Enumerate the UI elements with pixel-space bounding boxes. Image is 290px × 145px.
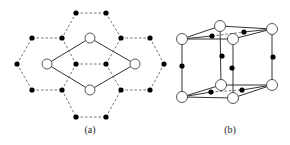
filled-atom	[179, 63, 184, 68]
dashed-bond	[62, 90, 76, 117]
dashed-bond	[62, 13, 76, 38]
solid-bond	[233, 85, 272, 98]
filled-atom	[241, 29, 246, 34]
panel-b-prism-cell	[177, 21, 278, 104]
panel-a-hex-lattice	[14, 10, 166, 119]
filled-atom	[29, 35, 34, 40]
solid-bond	[47, 64, 90, 90]
dashed-bond	[106, 38, 121, 64]
panel-a-label: (a)	[84, 124, 95, 135]
filled-atom	[118, 35, 123, 40]
open-atom	[215, 21, 226, 32]
filled-atom	[118, 87, 123, 92]
dashed-bond	[106, 13, 121, 38]
panel-b-label: (b)	[224, 124, 236, 135]
filled-atom	[103, 114, 108, 119]
filled-atom	[209, 33, 214, 38]
filled-atom	[73, 61, 78, 66]
open-atom	[130, 59, 140, 69]
open-atom	[85, 33, 95, 43]
filled-atom	[229, 65, 234, 70]
dashed-bond	[150, 64, 164, 90]
filled-atom	[14, 61, 19, 66]
filled-atom	[239, 87, 244, 92]
filled-atom	[103, 10, 108, 15]
open-atom	[42, 59, 52, 69]
filled-atom	[59, 35, 64, 40]
solid-bond	[47, 38, 90, 64]
filled-atom	[29, 87, 34, 92]
filled-atom	[161, 61, 166, 66]
solid-bond	[90, 38, 135, 64]
dashed-bond	[17, 38, 32, 64]
diagram-canvas	[0, 0, 290, 145]
filled-atom	[147, 87, 152, 92]
solid-bond	[182, 85, 221, 97]
dashed-bond	[150, 38, 164, 64]
solid-bond	[220, 26, 272, 29]
solid-bond	[233, 29, 272, 39]
filled-atom	[208, 89, 213, 94]
open-atom	[177, 34, 188, 45]
filled-atom	[73, 114, 78, 119]
filled-atom	[147, 35, 152, 40]
filled-atom	[270, 54, 275, 59]
open-atom	[85, 85, 95, 95]
open-atom	[228, 93, 239, 104]
filled-atom	[59, 87, 64, 92]
filled-atom	[103, 61, 108, 66]
open-atom	[177, 92, 188, 103]
dashed-bond	[212, 32, 244, 36]
open-atom	[267, 24, 278, 35]
dashed-bond	[211, 90, 242, 92]
open-atom	[216, 80, 227, 91]
dashed-bond	[106, 64, 121, 90]
dashed-bond	[106, 90, 121, 117]
open-atom	[267, 80, 278, 91]
filled-atom	[73, 10, 78, 15]
open-atom	[228, 34, 239, 45]
dashed-bond	[17, 64, 32, 90]
solid-bond	[182, 97, 233, 98]
solid-bond	[90, 64, 135, 90]
filled-atom	[219, 53, 224, 58]
